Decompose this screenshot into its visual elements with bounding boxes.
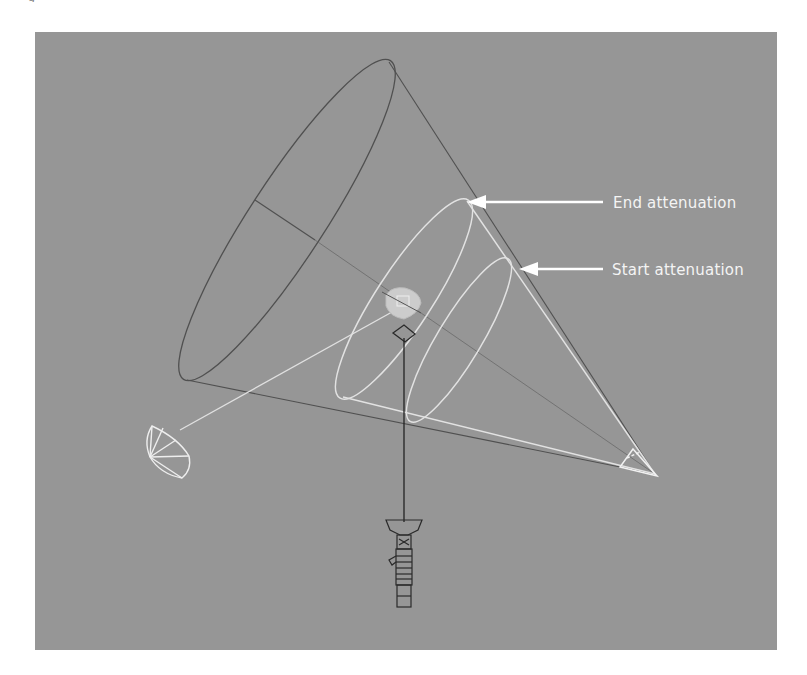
outer-cone	[152, 40, 655, 474]
end-attenuation-arrow	[467, 195, 603, 209]
end-attenuation-ellipse	[316, 185, 655, 474]
target-dome	[147, 426, 190, 478]
end-attenuation-label: End attenuation	[613, 194, 736, 212]
viewport-scene	[35, 32, 777, 650]
start-attenuation-arrow	[519, 262, 603, 276]
figure-caption-fragment: g	[28, 0, 38, 2]
spotlight-fixture	[386, 520, 422, 607]
3d-viewport[interactable]: End attenuation Start attenuation	[35, 32, 777, 650]
start-attenuation-label: Start attenuation	[612, 261, 744, 279]
start-attenuation-ellipse	[391, 247, 527, 433]
target-line	[180, 312, 392, 430]
